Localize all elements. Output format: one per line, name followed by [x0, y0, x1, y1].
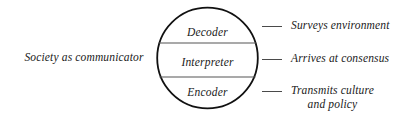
connector-dash-icon: [262, 26, 282, 27]
society-as-communicator-label: Society as communicator: [14, 51, 154, 64]
annotation-text-surveys: Surveys environment: [291, 19, 390, 33]
band-label-encoder: Encoder: [156, 86, 259, 99]
annotation-text-consensus: Arrives at consensus: [291, 52, 389, 66]
annotation-row-transmits: Transmits culture and policy: [262, 84, 374, 111]
annotation-line-2: and policy: [291, 98, 374, 112]
annotation-row-consensus: Arrives at consensus: [262, 52, 389, 66]
annotation-list: Surveys environment Arrives at consensus…: [262, 0, 405, 120]
band-label-interpreter: Interpreter: [156, 56, 259, 69]
annotation-text-transmits: Transmits culture and policy: [291, 84, 374, 111]
annotation-line-1: Transmits culture: [291, 84, 374, 96]
communication-model-diagram: Society as communicator Decoder Interpre…: [0, 0, 405, 120]
connector-dash-icon: [262, 91, 282, 92]
annotation-line-1: Arrives at consensus: [291, 52, 389, 64]
annotation-line-1: Surveys environment: [291, 19, 390, 31]
annotation-row-surveys: Surveys environment: [262, 19, 390, 33]
communicator-circle: Decoder Interpreter Encoder: [156, 6, 259, 110]
connector-dash-icon: [262, 59, 282, 60]
band-label-decoder: Decoder: [156, 26, 259, 39]
